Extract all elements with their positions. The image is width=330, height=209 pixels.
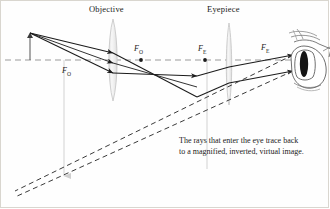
- objective-label: Objective: [89, 5, 124, 14]
- f-subscript: E: [203, 49, 206, 55]
- objective-lens: [109, 19, 117, 101]
- virtual-image-extension-rays: [15, 55, 293, 197]
- human-eye: [289, 29, 330, 91]
- eyepiece-label: Eyepiece: [207, 5, 240, 14]
- object-arrow: [27, 33, 33, 61]
- focal-eyepiece-left-label: FE: [198, 45, 206, 55]
- ray-upper: [30, 33, 293, 97]
- image-marker-lines: [64, 60, 207, 176]
- focal-eyepiece-right-label: FE: [261, 44, 269, 54]
- focal-objective-upper-label: FO: [134, 45, 143, 55]
- eyepiece-lens: [226, 23, 231, 105]
- f-subscript: O: [67, 71, 71, 77]
- f-subscript: E: [266, 48, 269, 54]
- diagram-caption: The rays that enter the eye trace back t…: [179, 135, 304, 158]
- f-subscript: O: [139, 49, 143, 55]
- diagram-canvas: [1, 1, 330, 209]
- focal-objective-lower-label: FO: [62, 67, 71, 77]
